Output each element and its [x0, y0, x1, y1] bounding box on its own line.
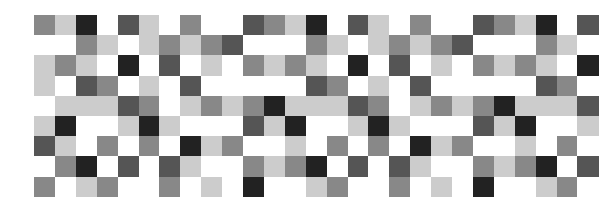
mosaic-cell — [515, 15, 536, 36]
mosaic-cell — [222, 35, 243, 56]
mosaic-cell — [243, 156, 264, 177]
mosaic-cell — [348, 116, 369, 137]
mosaic-cell — [452, 156, 473, 177]
gray-square-mosaic — [34, 15, 603, 197]
mosaic-cell — [368, 156, 389, 177]
mosaic-cell — [118, 156, 139, 177]
mosaic-cell — [55, 177, 76, 198]
mosaic-cell — [557, 55, 578, 76]
mosaic-cell — [410, 96, 431, 117]
mosaic-cell — [557, 35, 578, 56]
mosaic-cell — [180, 156, 201, 177]
mosaic-cell — [536, 177, 557, 198]
mosaic-cell — [264, 96, 285, 117]
mosaic-cell — [431, 35, 452, 56]
mosaic-cell — [55, 156, 76, 177]
mosaic-cell — [410, 35, 431, 56]
mosaic-cell — [494, 156, 515, 177]
mosaic-cell — [201, 116, 222, 137]
mosaic-cell — [264, 156, 285, 177]
mosaic-cell — [410, 136, 431, 157]
mosaic-cell — [97, 116, 118, 137]
mosaic-cell — [473, 96, 494, 117]
mosaic-cell — [577, 15, 598, 36]
mosaic-cell — [34, 15, 55, 36]
mosaic-cell — [201, 76, 222, 97]
mosaic-cell — [97, 15, 118, 36]
mosaic-cell — [473, 136, 494, 157]
mosaic-cell — [76, 15, 97, 36]
mosaic-cell — [159, 76, 180, 97]
mosaic-cell — [368, 76, 389, 97]
mosaic-cell — [118, 177, 139, 198]
mosaic-cell — [201, 15, 222, 36]
mosaic-cell — [201, 156, 222, 177]
mosaic-cell — [118, 96, 139, 117]
mosaic-cell — [243, 15, 264, 36]
mosaic-cell — [536, 15, 557, 36]
mosaic-cell — [557, 116, 578, 137]
mosaic-cell — [243, 35, 264, 56]
mosaic-cell — [285, 156, 306, 177]
mosaic-cell — [327, 116, 348, 137]
mosaic-cell — [577, 96, 598, 117]
mosaic-cell — [222, 136, 243, 157]
mosaic-cell — [348, 76, 369, 97]
mosaic-cell — [180, 136, 201, 157]
mosaic-cell — [55, 76, 76, 97]
mosaic-cell — [159, 156, 180, 177]
mosaic-cell — [389, 116, 410, 137]
mosaic-cell — [410, 15, 431, 36]
mosaic-cell — [306, 15, 327, 36]
mosaic-cell — [431, 15, 452, 36]
mosaic-cell — [264, 116, 285, 137]
mosaic-cell — [473, 156, 494, 177]
mosaic-cell — [139, 35, 160, 56]
mosaic-cell — [34, 116, 55, 137]
mosaic-cell — [180, 116, 201, 137]
mosaic-cell — [327, 35, 348, 56]
mosaic-cell — [494, 96, 515, 117]
mosaic-cell — [473, 55, 494, 76]
mosaic-cell — [97, 96, 118, 117]
mosaic-cell — [222, 177, 243, 198]
mosaic-cell — [76, 35, 97, 56]
mosaic-cell — [452, 76, 473, 97]
mosaic-cell — [306, 116, 327, 137]
mosaic-cell — [431, 156, 452, 177]
mosaic-cell — [389, 55, 410, 76]
mosaic-cell — [55, 96, 76, 117]
mosaic-cell — [285, 55, 306, 76]
mosaic-cell — [222, 96, 243, 117]
mosaic-cell — [348, 96, 369, 117]
mosaic-cell — [34, 35, 55, 56]
mosaic-cell — [139, 15, 160, 36]
mosaic-cell — [159, 116, 180, 137]
mosaic-cell — [536, 96, 557, 117]
mosaic-cell — [557, 15, 578, 36]
mosaic-cell — [243, 136, 264, 157]
mosaic-cell — [410, 76, 431, 97]
mosaic-cell — [139, 116, 160, 137]
mosaic-cell — [368, 15, 389, 36]
mosaic-cell — [34, 55, 55, 76]
mosaic-cell — [243, 55, 264, 76]
mosaic-cell — [306, 35, 327, 56]
mosaic-cell — [285, 177, 306, 198]
mosaic-cell — [76, 136, 97, 157]
mosaic-cell — [536, 156, 557, 177]
mosaic-cell — [285, 96, 306, 117]
mosaic-cell — [139, 55, 160, 76]
mosaic-cell — [180, 35, 201, 56]
mosaic-cell — [577, 55, 598, 76]
mosaic-cell — [285, 76, 306, 97]
mosaic-cell — [180, 55, 201, 76]
mosaic-cell — [410, 55, 431, 76]
mosaic-cell — [515, 76, 536, 97]
mosaic-cell — [180, 96, 201, 117]
mosaic-cell — [327, 96, 348, 117]
mosaic-cell — [515, 35, 536, 56]
mosaic-cell — [431, 76, 452, 97]
mosaic-cell — [389, 156, 410, 177]
mosaic-cell — [410, 116, 431, 137]
